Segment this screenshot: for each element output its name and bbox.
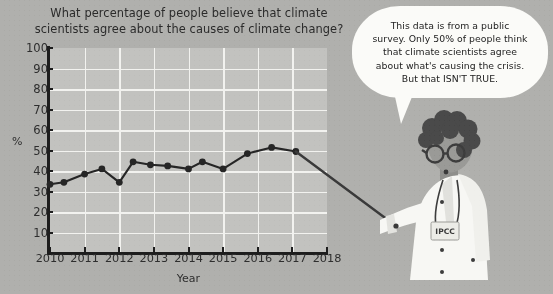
bubble-line-3: that climate scientists agree [360, 45, 540, 58]
data-point-marker [220, 166, 227, 173]
data-point-marker [99, 166, 106, 173]
bubble-line-1: This data is from a public [360, 19, 540, 32]
scientist-illustration: IPCC [380, 110, 553, 294]
data-point-marker [185, 166, 192, 173]
data-point-marker [61, 179, 68, 186]
hand [393, 223, 398, 228]
data-point-marker [244, 150, 251, 157]
data-point-marker [116, 179, 123, 186]
bubble-line-5: But that ISN'T TRUE. [360, 72, 540, 85]
data-point-marker [47, 181, 54, 188]
coat-button-3 [440, 270, 444, 274]
id-badge-label: IPCC [435, 227, 455, 236]
data-point-marker [164, 163, 171, 170]
data-point-marker [268, 144, 275, 151]
bubble-line-4: about what's causing the crisis. [360, 59, 540, 72]
coat-button-1 [440, 200, 444, 204]
coat-button-2 [440, 248, 444, 252]
data-point-marker [199, 158, 206, 165]
bubble-line-2: survey. Only 50% of people think [360, 32, 540, 45]
data-line [50, 147, 296, 184]
data-point-marker [147, 161, 154, 168]
mouth [444, 170, 449, 175]
data-point-marker [81, 171, 88, 178]
coat-button-4 [471, 258, 475, 262]
speech-bubble-text: This data is from a public survey. Only … [360, 19, 540, 85]
data-point-marker [130, 158, 137, 165]
speech-bubble: This data is from a public survey. Only … [352, 6, 548, 98]
